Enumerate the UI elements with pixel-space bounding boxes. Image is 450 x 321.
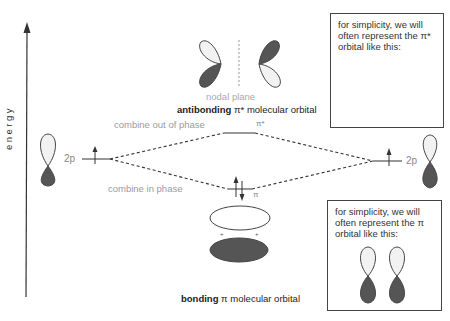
left-2p-level <box>82 146 110 164</box>
bonding-simplification-box: for simplicity, we will often represent … <box>327 200 442 311</box>
bonding-level <box>228 176 252 201</box>
antibonding-mo-title: antibonding π* molecular orbital <box>177 104 317 115</box>
right-2p-label: 2p <box>406 155 417 166</box>
combine-in-phase-label: combine in phase <box>108 183 182 194</box>
bonding-orbital-picture: + + <box>210 206 270 262</box>
energy-axis <box>24 22 31 297</box>
antibonding-title-bold: antibonding <box>177 104 231 115</box>
axis-arrow-icon <box>24 22 31 33</box>
bonding-title-rest: π molecular orbital <box>218 293 300 304</box>
right-p-orbital <box>423 135 437 188</box>
bonding-title-bold: bonding <box>181 293 218 304</box>
antibonding-orbital-picture <box>200 40 281 88</box>
right-2p-level <box>373 148 402 166</box>
left-2p-label: 2p <box>64 153 75 164</box>
svg-text:+: + <box>255 231 259 237</box>
left-p-orbital <box>41 134 56 186</box>
antibonding-title-rest: π* molecular orbital <box>231 104 316 115</box>
antibonding-box-text: for simplicity, we will often represent … <box>338 19 438 52</box>
bonding-box-text: for simplicity, we will often represent … <box>335 206 435 239</box>
nodal-plane-label: nodal plane <box>206 91 255 102</box>
combine-out-of-phase-label: combine out of phase <box>114 119 205 130</box>
bonding-mo-title: bonding π molecular orbital <box>181 293 300 304</box>
energy-axis-label: energy <box>3 106 14 150</box>
svg-text:+: + <box>220 231 224 237</box>
antibonding-level-label: π* <box>256 119 265 128</box>
correlation-lines <box>110 133 373 189</box>
antibonding-simplification-box: for simplicity, we will often represent … <box>330 13 444 128</box>
bonding-level-label: π <box>253 190 259 199</box>
